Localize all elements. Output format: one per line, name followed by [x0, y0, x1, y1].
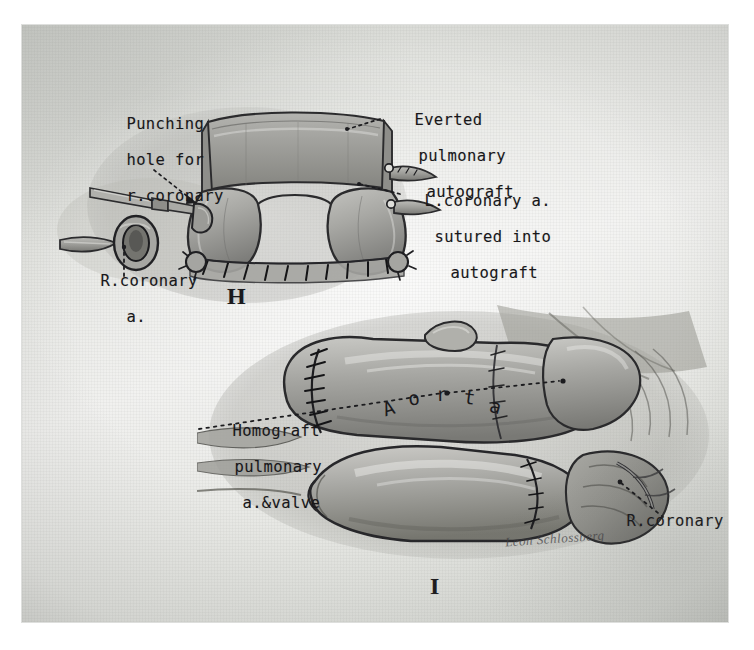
- annotation-line: a.&valve: [242, 494, 320, 512]
- annotation-homograft-pulmonary: Homograft pulmonary a.&valve: [174, 405, 322, 531]
- annotation-l-coronary-sutured: L.coronary a. sutured into autograft: [366, 175, 551, 301]
- annotation-line: Punching: [126, 115, 204, 133]
- illustration-plate: Punching hole for r.coronary Everted pul…: [0, 0, 754, 650]
- annotation-line: R.coronary: [100, 272, 197, 290]
- annotation-r-coronary-button: R.coronary a.: [42, 255, 172, 345]
- annotation-line: autograft: [450, 264, 538, 282]
- annotation-line: Homograft: [232, 422, 320, 440]
- annotation-line: pulmonary: [234, 458, 322, 476]
- annotation-line: Everted: [414, 111, 482, 129]
- paper-sheet: Punching hole for r.coronary Everted pul…: [22, 25, 728, 622]
- annotation-line: pulmonary: [418, 147, 506, 165]
- annotation-line: a.: [126, 308, 145, 326]
- annotation-line: r.coronary: [126, 187, 223, 205]
- annotation-line: hole for: [126, 151, 204, 169]
- figure-label-i: I: [430, 573, 439, 600]
- annotation-line: sutured into: [434, 228, 551, 246]
- annotation-punching-hole: Punching hole for r.coronary: [68, 98, 224, 224]
- aorta-letter: t: [462, 385, 476, 408]
- annotation-line: R.coronary a.: [626, 512, 728, 530]
- annotation-aorta: Aorta: [388, 487, 548, 535]
- aorta-letter: r: [436, 383, 448, 405]
- annotation-line: L.coronary a.: [424, 192, 551, 210]
